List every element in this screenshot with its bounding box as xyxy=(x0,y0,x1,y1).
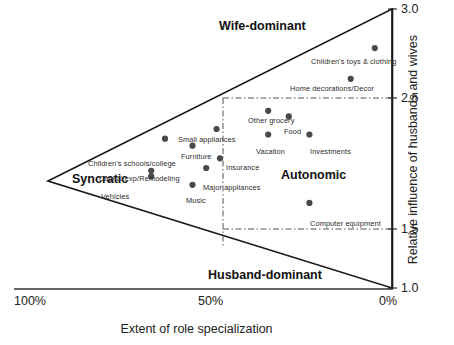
x-tick-label-50: 50% xyxy=(198,294,223,308)
data-point xyxy=(265,131,271,137)
x-axis-title: Extent of role specialization xyxy=(0,322,393,336)
data-point xyxy=(306,200,312,206)
point-label-small-appliances: Small appliances xyxy=(178,135,235,144)
region-label-wife-dominant: Wife-dominant xyxy=(219,19,306,33)
x-tick-label-0: 0% xyxy=(379,294,397,308)
point-label-capital-exp-remodeling: Capital exp/Remodeling xyxy=(99,174,180,183)
data-point xyxy=(265,108,271,114)
point-label-computer-equipment: Computer equipment xyxy=(310,219,381,228)
data-point xyxy=(348,76,354,82)
data-point xyxy=(189,182,195,188)
point-label-home-decorations: Home decorations/Decor xyxy=(290,84,374,93)
point-label-music: Music xyxy=(186,196,206,205)
point-label-other-grocery: Other grocery xyxy=(248,116,294,125)
data-point xyxy=(162,136,168,142)
data-point xyxy=(306,131,312,137)
point-label-vehicles: Vehicles xyxy=(101,192,129,201)
region-label-autonomic: Autonomic xyxy=(281,168,346,182)
data-point xyxy=(203,165,209,171)
point-label-vacation: Vacation xyxy=(256,147,285,156)
point-label-insurance: Insurance xyxy=(226,163,259,172)
data-point xyxy=(372,45,378,51)
data-point xyxy=(214,126,220,132)
y-axis-title-text: Relative influence of husbands and wives xyxy=(406,35,420,264)
point-label-childrens-toys-clothing: Children's toys & clothing xyxy=(311,57,396,66)
data-point xyxy=(217,155,223,161)
region-label-husband-dominant: Husband-dominant xyxy=(208,268,322,282)
point-label-major-appliances: Major appliances xyxy=(203,183,260,192)
point-label-investments: Investments xyxy=(310,147,351,156)
point-label-childrens-schools: Children's schools/college xyxy=(88,159,176,168)
chart-container: 3.0 2.5 1.5 1.0 100% 50% 0% Extent of ro… xyxy=(0,0,454,345)
point-label-food: Food xyxy=(284,127,301,136)
data-point xyxy=(148,168,154,174)
y-axis-title: Relative influence of husbands and wives xyxy=(398,0,428,300)
point-label-furniture: Furniture xyxy=(181,152,211,161)
x-tick-label-100: 100% xyxy=(14,294,46,308)
